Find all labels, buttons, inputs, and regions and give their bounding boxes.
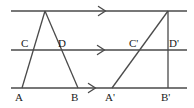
vertex-label-C: C — [21, 38, 28, 49]
geometry-figure: C D C' D' A B A' B' — [0, 0, 194, 108]
parallel-lines-group — [11, 11, 187, 88]
vertex-label-B: B — [71, 92, 78, 103]
vertex-label-D-prime: D' — [169, 38, 179, 49]
vertex-label-D: D — [58, 38, 66, 49]
vertex-label-A: A — [15, 92, 23, 103]
vertex-label-A-prime: A' — [105, 92, 115, 103]
vertex-label-C-prime: C' — [129, 38, 138, 49]
vertex-label-B-prime: B' — [161, 92, 170, 103]
